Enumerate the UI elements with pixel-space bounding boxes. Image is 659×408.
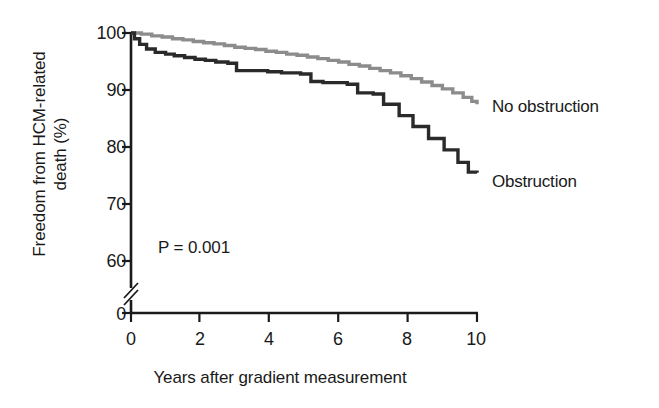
axis-group <box>122 33 478 322</box>
plot-area <box>0 0 659 408</box>
curve-no-obstruction <box>131 33 477 104</box>
survival-chart-figure: Freedom from HCM-related death (%) 100 9… <box>0 0 659 408</box>
series-group <box>131 33 477 173</box>
